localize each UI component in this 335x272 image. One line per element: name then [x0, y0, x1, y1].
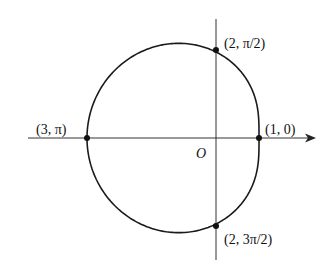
point-2-pi-over-2 — [213, 47, 219, 53]
point-3-pi — [84, 135, 90, 141]
label-point-1-0: (1, 0) — [265, 122, 296, 138]
polar-diagram: (1, 0) (2, π/2) (3, π) (2, 3π/2) O — [0, 0, 335, 272]
label-point-2-3pi-over-2: (2, 3π/2) — [224, 232, 273, 248]
point-2-3pi-over-2 — [213, 223, 219, 229]
origin-label: O — [196, 146, 206, 161]
point-1-0 — [256, 135, 262, 141]
label-point-2-pi-over-2: (2, π/2) — [224, 36, 266, 52]
label-point-3-pi: (3, π) — [36, 122, 67, 138]
